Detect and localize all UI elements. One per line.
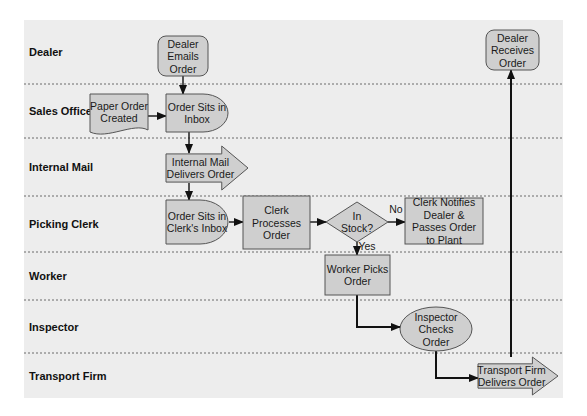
node-label: Dealer (497, 32, 528, 44)
node-label: Order Sits in (168, 210, 227, 222)
node-label: Paper Order (90, 100, 148, 112)
node-label: Inspector (414, 311, 458, 323)
node-label: Order (170, 63, 197, 75)
node-label: Passes Order (412, 221, 477, 233)
node-ellipse: InspectorChecksOrder (400, 307, 472, 351)
lane-dealer: Dealer (29, 46, 63, 58)
node-label: In (353, 210, 362, 222)
node-label: Delivers Order (478, 376, 546, 388)
node-label: Order (263, 229, 290, 241)
lane-label: Dealer (29, 46, 63, 58)
edge-label: No (389, 203, 403, 215)
node-rounded-rect: DealerReceivesOrder (486, 30, 539, 70)
node-label: Inbox (184, 113, 210, 125)
node-label: to Plant (426, 234, 462, 246)
node-label: Worker Picks (327, 263, 389, 275)
node-label: Created (100, 112, 138, 124)
swimlane-diagram: DealerSales OfficeInternal MailPicking C… (0, 0, 587, 416)
node-label: Dealer (168, 38, 199, 50)
node-rounded-rect: DealerEmailsOrder (158, 36, 208, 76)
node-label: Emails (167, 50, 199, 62)
node-label: Receives (491, 44, 534, 56)
lane-label: Transport Firm (29, 370, 107, 382)
node-document: Paper OrderCreated (90, 94, 148, 134)
node-label: Internal Mail (172, 156, 229, 168)
lane-label: Internal Mail (29, 161, 93, 173)
node-label: Dealer & (424, 209, 465, 221)
lane-label: Worker (29, 270, 67, 282)
node-label: Clerk Notifies (413, 196, 475, 208)
node-rect: ClerkProcessesOrder (243, 196, 310, 249)
node-label: Transport Firm (477, 364, 546, 376)
node-label: Clerk's Inbox (167, 222, 228, 234)
node-label: Stock? (341, 222, 373, 234)
node-label: Order (499, 57, 526, 69)
node-label: Order (344, 275, 371, 287)
node-delay: Order Sits inInbox (166, 94, 228, 132)
node-label: Processes (252, 217, 301, 229)
node-label: Checks (418, 323, 453, 335)
lane-label: Picking Clerk (29, 218, 100, 230)
node-rect: Clerk NotifiesDealer &Passes Orderto Pla… (405, 196, 483, 246)
node-delay: Order Sits inClerk's Inbox (166, 200, 228, 244)
edge-label: Yes (358, 240, 375, 252)
node-label: Clerk (264, 204, 289, 216)
lane-label: Inspector (29, 321, 79, 333)
node-rect: Worker PicksOrder (325, 255, 390, 295)
node-label: Order Sits in (168, 101, 227, 113)
node-label: Delivers Order (167, 168, 235, 180)
lane-label: Sales Office (29, 105, 92, 117)
node-label: Order (423, 336, 450, 348)
